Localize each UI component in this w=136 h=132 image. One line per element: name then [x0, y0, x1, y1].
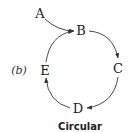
edge-a-to-b: [45, 19, 74, 31]
edge-b-to-c: [89, 31, 118, 58]
node-e: E: [40, 64, 50, 77]
edge-d-to-e: [46, 78, 70, 108]
edge-c-to-d: [87, 77, 118, 108]
node-a: A: [35, 7, 44, 20]
panel-label-text: (b): [11, 64, 27, 77]
panel-label: (b): [11, 65, 27, 76]
diagram-caption: Circular: [58, 121, 102, 132]
edge-e-to-b: [46, 31, 73, 62]
node-c: C: [113, 62, 123, 75]
node-b: B: [76, 24, 86, 37]
node-d: D: [73, 102, 83, 115]
